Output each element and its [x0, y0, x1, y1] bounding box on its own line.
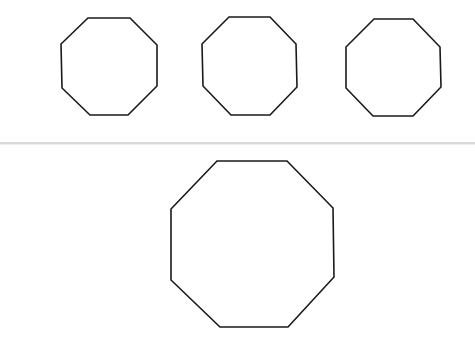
octagon-large — [171, 161, 334, 327]
octagon-2 — [202, 17, 297, 115]
octagon-drawing — [0, 0, 475, 358]
figure-canvas — [0, 0, 475, 358]
octagon-3 — [346, 19, 441, 116]
octagon-1 — [61, 18, 157, 115]
